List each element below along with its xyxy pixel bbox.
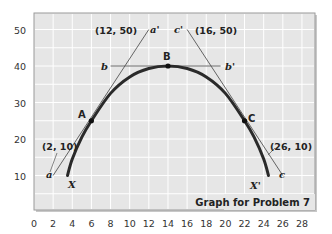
- x-tick-12: 12: [143, 218, 155, 229]
- x-tick-22: 22: [238, 218, 250, 229]
- label-end-x-prime: X': [249, 180, 261, 191]
- label-line-b-prime: b': [225, 61, 235, 72]
- point-c: [242, 118, 247, 123]
- x-tick-14: 14: [162, 218, 174, 229]
- x-tick-24: 24: [258, 218, 270, 229]
- annotation-26-10: (26, 10): [270, 141, 312, 152]
- annotation-12-50: (12, 50): [95, 25, 137, 36]
- y-axis: 50 40 30 20 10: [14, 25, 26, 182]
- label-point-c: C: [248, 113, 255, 124]
- x-tick-8: 8: [108, 218, 114, 229]
- label-line-c-prime: c': [174, 24, 183, 35]
- label-line-a: a: [46, 169, 52, 180]
- y-tick-40: 40: [14, 61, 26, 72]
- y-tick-20: 20: [14, 134, 26, 145]
- y-tick-30: 30: [14, 98, 26, 109]
- annotation-2-10: (2, 10): [42, 141, 77, 152]
- x-tick-4: 4: [69, 218, 75, 229]
- point-b: [165, 63, 170, 68]
- label-line-c: c: [279, 169, 285, 180]
- chart-caption: Graph for Problem 7: [195, 197, 310, 208]
- label-line-b: b: [101, 61, 108, 72]
- x-axis: 0 2 4 6 8 10 12 14 16 18 20 22 24 26 28: [31, 218, 308, 229]
- label-point-a: A: [78, 109, 86, 120]
- point-a: [89, 118, 94, 123]
- x-tick-26: 26: [277, 218, 289, 229]
- annotation-16-50: (16, 50): [195, 25, 237, 36]
- x-tick-18: 18: [200, 218, 212, 229]
- x-tick-28: 28: [296, 218, 308, 229]
- x-tick-0: 0: [31, 218, 37, 229]
- x-tick-20: 20: [219, 218, 231, 229]
- label-line-a-prime: a': [150, 24, 160, 35]
- x-tick-6: 6: [88, 218, 94, 229]
- x-tick-10: 10: [124, 218, 136, 229]
- label-end-x: X: [67, 179, 77, 190]
- label-point-b: B: [163, 51, 171, 62]
- x-tick-2: 2: [50, 218, 56, 229]
- chart: A B C a a' b b' c' c X X' (12, 50) (16, …: [0, 0, 332, 234]
- plot-area: [34, 13, 315, 210]
- y-tick-10: 10: [14, 171, 26, 182]
- y-tick-50: 50: [14, 25, 26, 36]
- x-tick-16: 16: [181, 218, 193, 229]
